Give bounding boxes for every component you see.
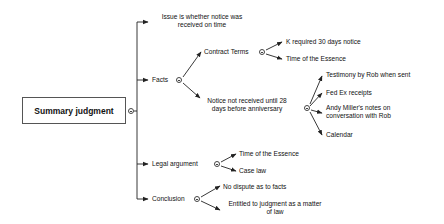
node-legal-argument[interactable]: Legal argument xyxy=(152,160,198,168)
node-issue-line-1: Issue is whether notice was xyxy=(150,13,254,21)
node-issue[interactable]: Issue is whether notice was received on … xyxy=(150,13,254,29)
collapse-icon[interactable] xyxy=(304,105,310,111)
node-k-required-label: K required 30 days notice xyxy=(286,38,361,45)
node-notice-line-1: Notice not received until 28 xyxy=(200,97,294,105)
node-testimony-label: Testimony by Rob when sent xyxy=(326,71,410,78)
node-no-dispute-label: No dispute as to facts xyxy=(223,183,286,190)
node-contract-terms-label: Contract Terms xyxy=(204,48,249,55)
root-label: Summary judgment xyxy=(34,106,113,116)
node-fedex[interactable]: Fed Ex receipts xyxy=(326,89,372,97)
node-time-essence-legal[interactable]: Time of the Essence xyxy=(239,150,299,158)
node-contract-terms[interactable]: Contract Terms xyxy=(204,48,249,56)
node-calendar[interactable]: Calendar xyxy=(326,131,353,139)
collapse-icon[interactable] xyxy=(214,161,220,167)
collapse-icon[interactable] xyxy=(259,49,265,55)
node-time-essence-legal-label: Time of the Essence xyxy=(239,150,299,157)
node-entitled-line-1: Entitled to judgment as a matter xyxy=(220,200,330,208)
collapse-icon[interactable] xyxy=(128,108,134,114)
node-k-required[interactable]: K required 30 days notice xyxy=(286,38,361,46)
node-no-dispute[interactable]: No dispute as to facts xyxy=(223,183,286,191)
node-facts[interactable]: Facts xyxy=(152,76,168,84)
collapse-icon[interactable] xyxy=(194,196,200,202)
root-node[interactable]: Summary judgment xyxy=(22,97,126,124)
node-case-law[interactable]: Case law xyxy=(239,167,266,175)
node-andy-miller[interactable]: Andy Miller's notes on conversation with… xyxy=(326,104,391,120)
node-notice[interactable]: Notice not received until 28 days before… xyxy=(200,97,294,113)
node-conclusion-label: Conclusion xyxy=(152,195,185,202)
node-legal-argument-label: Legal argument xyxy=(152,160,198,167)
node-notice-line-2: days before anniversary xyxy=(200,105,294,113)
node-facts-label: Facts xyxy=(152,76,168,83)
node-andy-miller-line-1: Andy Miller's notes on xyxy=(326,104,391,112)
node-time-essence-contract[interactable]: Time of the Essence xyxy=(286,55,346,63)
node-fedex-label: Fed Ex receipts xyxy=(326,89,372,96)
node-issue-line-2: received on time xyxy=(150,21,254,29)
node-calendar-label: Calendar xyxy=(326,131,353,138)
node-entitled[interactable]: Entitled to judgment as a matter of law xyxy=(220,200,330,216)
node-conclusion[interactable]: Conclusion xyxy=(152,195,185,203)
node-testimony[interactable]: Testimony by Rob when sent xyxy=(326,71,410,79)
node-andy-miller-line-2: conversation with Rob xyxy=(326,112,391,120)
node-case-law-label: Case law xyxy=(239,167,266,174)
mind-map-canvas: Summary judgment Issue is whether notice… xyxy=(0,0,444,224)
node-entitled-line-2: of law xyxy=(220,208,330,216)
node-time-essence-contract-label: Time of the Essence xyxy=(286,55,346,62)
collapse-icon[interactable] xyxy=(176,77,182,83)
